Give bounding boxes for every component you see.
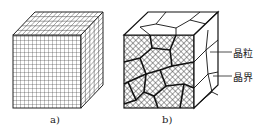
caption-a: a) xyxy=(50,114,60,125)
grain-boundary-label: 晶界 xyxy=(233,69,253,84)
caption-b: b) xyxy=(162,114,172,125)
grain-label: 晶粒 xyxy=(233,45,253,60)
crystal-diagram xyxy=(0,0,262,134)
polycrystal-cube xyxy=(124,12,232,108)
single-crystal-cube xyxy=(13,12,103,108)
